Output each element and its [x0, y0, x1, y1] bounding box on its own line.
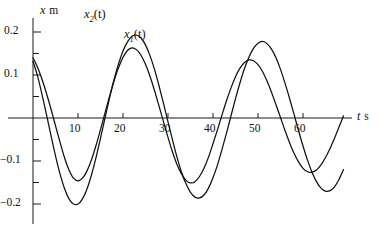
x-tick-label: 30: [159, 123, 171, 135]
curve-label-x2: x2(t): [84, 8, 106, 23]
curve-label-x2-suffix: (t): [94, 7, 106, 21]
x-tick-label: 20: [114, 123, 126, 135]
y-axis-symbol: x: [40, 3, 45, 17]
x-axis-symbol: t: [357, 109, 360, 123]
x-tick-label: 10: [69, 123, 81, 135]
y-tick-label: 0.1: [4, 68, 18, 80]
y-tick-label: −0.2: [0, 197, 21, 209]
curve-x1: [33, 48, 344, 183]
x-tick-label: 60: [294, 123, 306, 135]
y-tick-label: 0.2: [4, 25, 18, 37]
y-axis-unit: m: [49, 4, 58, 16]
y-axis-label: xm: [40, 4, 58, 17]
y-tick-label: −0.1: [0, 154, 21, 166]
data-curves: [33, 35, 344, 205]
curve-label-x1-suffix: (t): [134, 27, 146, 41]
chart-figure: 102030405060 −0.2−0.10.10.2 xm ts x2(t) …: [0, 0, 381, 229]
curve-label-x1: x1(t): [124, 28, 146, 43]
x-axis-ticks: [78, 113, 303, 118]
axes-group: [8, 18, 352, 224]
plot-canvas: [0, 0, 381, 229]
x-axis-label: ts: [357, 110, 369, 123]
curve-x2: [33, 35, 344, 205]
x-axis-unit: s: [364, 110, 368, 122]
x-tick-label: 50: [249, 123, 261, 135]
x-tick-label: 40: [204, 123, 216, 135]
